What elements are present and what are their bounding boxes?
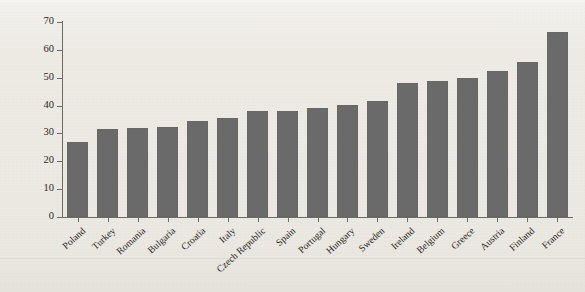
y-tick-mark [57, 78, 62, 79]
x-tick-mark [497, 217, 498, 222]
x-tick-label: Sweden [357, 225, 387, 254]
x-tick-mark [557, 217, 558, 222]
x-tick-mark [138, 217, 139, 222]
bar [247, 111, 268, 217]
bar [547, 32, 568, 217]
x-tick-label: Poland [60, 225, 87, 251]
bar [427, 81, 448, 218]
y-tick-mark [57, 133, 62, 134]
plot-area [63, 22, 572, 217]
bar [97, 129, 118, 217]
y-tick-mark [57, 106, 62, 107]
x-tick-label: Hungary [324, 225, 357, 256]
x-tick-label: Bulgaria [145, 225, 177, 255]
x-tick-label: Croatia [179, 225, 208, 252]
x-tick-label: Ireland [389, 225, 417, 252]
bar [67, 142, 88, 217]
y-tick-label: 30 [44, 126, 55, 137]
y-tick-label: 60 [44, 43, 55, 54]
bar [457, 78, 478, 217]
bar [217, 118, 238, 217]
x-tick-mark [228, 217, 229, 222]
bar [307, 108, 328, 217]
x-tick-label: Portugal [295, 225, 327, 255]
x-tick-mark [437, 217, 438, 222]
y-tick-label: 50 [44, 71, 55, 82]
x-tick-label: Belgium [414, 225, 446, 256]
x-tick-label: Italy [216, 225, 237, 245]
x-tick-label: Austria [478, 225, 507, 252]
y-tick-label: 0 [49, 210, 54, 221]
bar [517, 62, 538, 217]
y-tick-mark [57, 22, 62, 23]
x-tick-mark [78, 217, 79, 222]
x-tick-mark [377, 217, 378, 222]
bar [277, 111, 298, 217]
y-tick-label: 20 [44, 154, 55, 165]
x-tick-label: Spain [273, 225, 297, 248]
x-tick-mark [198, 217, 199, 222]
bar [397, 83, 418, 217]
x-tick-mark [467, 217, 468, 222]
x-tick-mark [347, 217, 348, 222]
bar [487, 71, 508, 217]
x-tick-mark [288, 217, 289, 222]
y-tick-mark [57, 161, 62, 162]
bar [337, 105, 358, 217]
x-tick-mark [527, 217, 528, 222]
bar-chart: respondents, % 010203040506070 PolandTur… [0, 0, 585, 292]
y-tick-label: 10 [44, 182, 55, 193]
y-tick-mark [57, 189, 62, 190]
x-tick-mark [168, 217, 169, 222]
x-tick-label: Romania [114, 225, 147, 257]
bar [187, 121, 208, 217]
y-tick-label: 40 [44, 99, 55, 110]
bar [367, 101, 388, 217]
page-background: respondents, % 010203040506070 PolandTur… [0, 0, 585, 292]
x-tick-mark [407, 217, 408, 222]
x-tick-label: Greece [449, 225, 477, 252]
bar [157, 127, 178, 217]
y-tick-mark [57, 217, 62, 218]
x-tick-mark [108, 217, 109, 222]
y-tick-label: 70 [44, 15, 55, 26]
x-tick-mark [318, 217, 319, 222]
x-tick-label: France [539, 225, 566, 251]
x-tick-label: Finland [507, 225, 536, 253]
y-tick-mark [57, 50, 62, 51]
bar [127, 128, 148, 217]
x-tick-mark [258, 217, 259, 222]
